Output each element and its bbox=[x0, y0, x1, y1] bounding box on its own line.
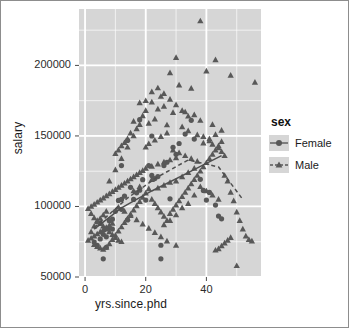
y-axis-title: salary bbox=[11, 93, 25, 183]
legend-item-female[interactable]: Female bbox=[269, 135, 349, 151]
x-tick-label: 40 bbox=[186, 283, 226, 295]
x-tick-label: 0 bbox=[65, 283, 105, 295]
legend-item-male[interactable]: Male bbox=[269, 157, 349, 173]
male-key-icon bbox=[269, 157, 289, 173]
x-axis-title: yrs.since.phd bbox=[1, 297, 261, 311]
y-tick-label: 50000 bbox=[1, 270, 71, 282]
y-tick-label: 200000 bbox=[1, 58, 71, 70]
legend-label-male: Male bbox=[295, 159, 319, 171]
scatter-plot: 20000015000010000050000 02040 yrs.since.… bbox=[1, 1, 348, 327]
legend-label-female: Female bbox=[295, 137, 332, 149]
legend: sex Female Male bbox=[269, 115, 349, 179]
x-tick-label: 20 bbox=[126, 283, 166, 295]
female-key-icon bbox=[269, 135, 289, 151]
y-tick-label: 100000 bbox=[1, 199, 71, 211]
chart-frame: 20000015000010000050000 02040 yrs.since.… bbox=[0, 0, 349, 328]
legend-title: sex bbox=[271, 115, 349, 129]
